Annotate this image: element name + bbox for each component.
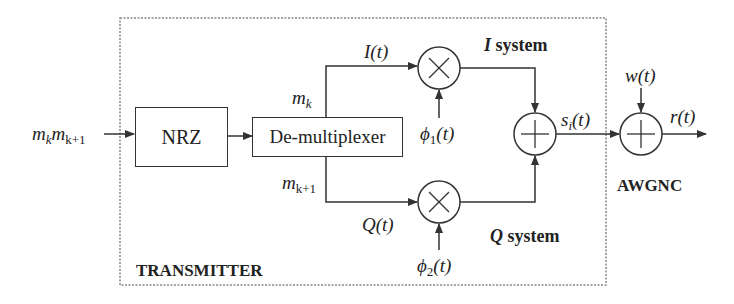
input-m1: m (32, 123, 46, 144)
channel-label: AWGNC (617, 177, 682, 194)
q-system-label: Q system (490, 227, 560, 245)
lower-branch-line (326, 156, 417, 202)
demux-block: De-multiplexer (252, 117, 403, 157)
phi1-label: ϕ1(t) (420, 124, 454, 146)
upper-branch-label: mk (292, 88, 312, 110)
input-k1: k+1 (65, 132, 85, 147)
i-signal-label: I(t) (364, 42, 388, 61)
si-label: si(t) (561, 110, 590, 132)
multiplier-q (418, 181, 460, 223)
phi2-label: ϕ2(t) (417, 256, 451, 278)
q-to-adder-line (460, 156, 535, 202)
i-to-adder-line (460, 68, 535, 112)
adder-iq (514, 113, 556, 155)
multiplier-i (418, 47, 460, 89)
received-label: r(t) (670, 107, 695, 126)
upper-branch-line (326, 66, 417, 117)
i-system-label: I system (484, 36, 548, 54)
input-label: mkmk+1 (32, 124, 86, 146)
noise-label: w(t) (625, 66, 656, 85)
transmitter-label: TRANSMITTER (136, 262, 263, 279)
input-m2: m (52, 123, 66, 144)
lower-branch-label: mk+1 (282, 173, 316, 195)
q-signal-label: Q(t) (362, 215, 394, 234)
nrz-block: NRZ (135, 107, 228, 167)
channel-adder (620, 113, 662, 155)
